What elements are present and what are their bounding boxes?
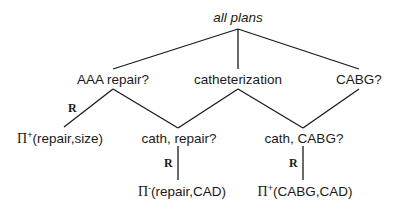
pi-symbol: Π xyxy=(138,184,148,199)
node-cath-repair: cath, repair? xyxy=(141,132,216,146)
edge-label-r: R xyxy=(164,157,173,169)
edge-label-r: R xyxy=(289,157,298,169)
node-cabg: CABG? xyxy=(336,73,382,87)
edge-label-r: R xyxy=(68,102,77,114)
leaf-repair-size: Π+(repair,size) xyxy=(17,131,103,146)
leaf-cabg-cad: Π+(CABG,CAD) xyxy=(258,184,353,199)
leaf-args: (CABG,CAD) xyxy=(273,184,353,199)
pi-symbol: Π xyxy=(17,131,27,146)
node-aaa-repair: AAA repair? xyxy=(77,73,149,87)
leaf-args: (repair,CAD) xyxy=(151,184,226,199)
pi-symbol: Π xyxy=(258,184,268,199)
node-cath-cabg: cath, CABG? xyxy=(265,132,344,146)
leaf-args: (repair,size) xyxy=(32,131,103,146)
tree-edges xyxy=(0,0,396,205)
leaf-repair-cad: Π-(repair,CAD) xyxy=(138,184,226,199)
node-catheterization: catheterization xyxy=(194,73,282,87)
root-node: all plans xyxy=(213,11,263,25)
